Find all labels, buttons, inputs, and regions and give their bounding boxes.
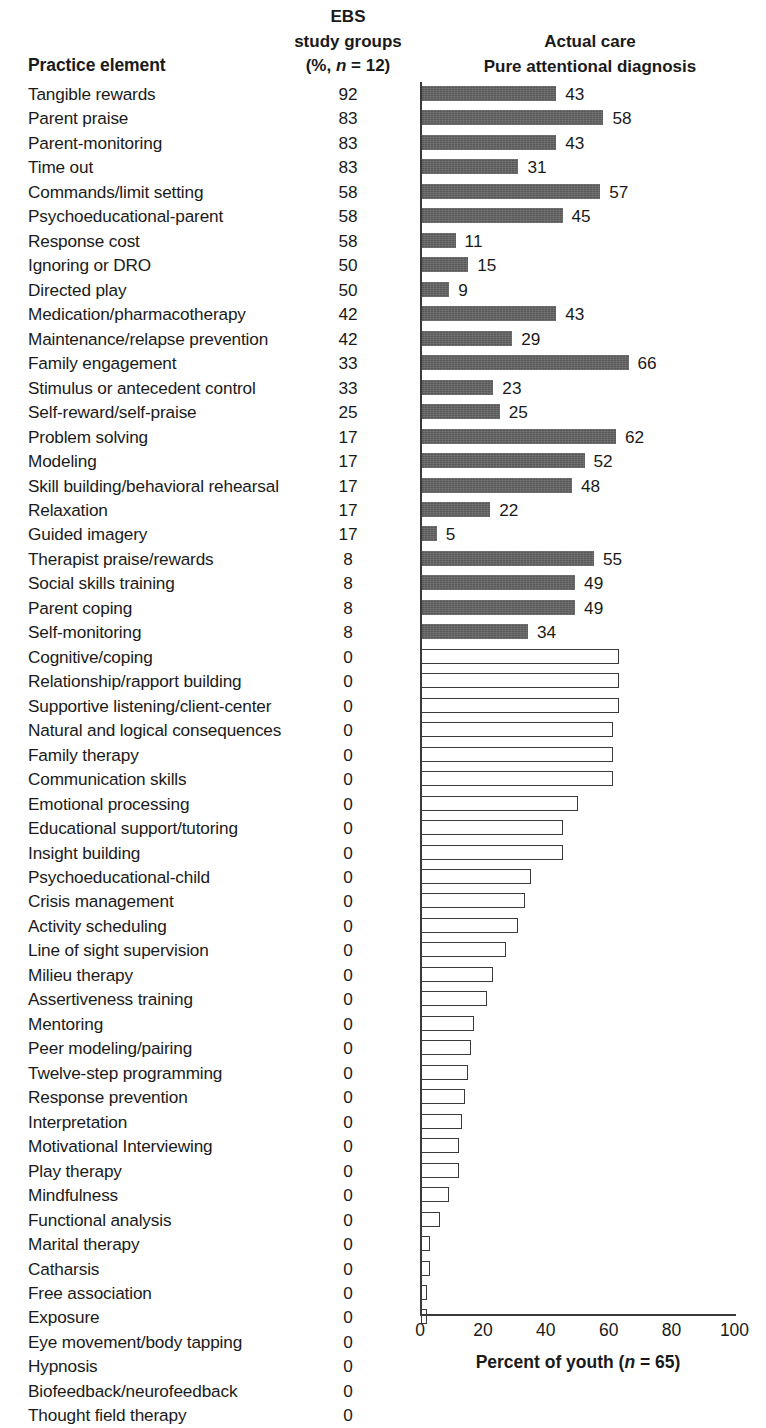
chart-row: Parent coping849 [0,596,766,620]
actual-care-bar [421,698,619,713]
actual-care-bar [421,1089,465,1104]
ebs-percent-value: 0 [286,1111,410,1133]
practice-element-label: Parent coping [28,597,132,619]
actual-care-bar-cell: 9 [421,278,766,302]
actual-care-bar [421,673,619,688]
actual-care-bar-value: 25 [509,401,528,423]
actual-care-bar [421,306,556,321]
ebs-percent-value: 58 [286,205,410,227]
actual-care-header-line1: Actual care [414,30,766,55]
actual-care-bar [421,893,525,908]
practice-element-label: Commands/limit setting [28,181,203,203]
actual-care-bar-cell: 48 [421,474,766,498]
practice-element-label: Line of sight supervision [28,939,209,961]
actual-care-bar [421,86,556,101]
practice-element-label: Activity scheduling [28,915,167,937]
actual-care-bar [421,159,518,174]
actual-care-bar [421,1138,459,1153]
ebs-percent-value: 0 [286,1404,410,1426]
actual-care-bar-cell [421,1061,766,1085]
x-axis-title-n: n [624,1352,635,1372]
ebs-percent-value: 0 [286,1135,410,1157]
actual-care-bar [421,184,600,199]
practice-element-label: Insight building [28,842,140,864]
chart-row: Functional analysis0 [0,1208,766,1232]
actual-care-bar [421,1285,427,1300]
actual-care-bar-value: 43 [565,303,584,325]
practice-element-label: Relationship/rapport building [28,670,242,692]
actual-care-bar-value: 9 [458,279,468,301]
actual-care-bar-cell [421,914,766,938]
practice-element-label: Guided imagery [28,523,147,545]
actual-care-bar [421,135,556,150]
actual-care-bar-cell [421,889,766,913]
chart-row: Catharsis0 [0,1257,766,1281]
actual-care-bar-value: 58 [612,107,631,129]
chart-row: Educational support/tutoring0 [0,816,766,840]
chart-row: Stimulus or antecedent control3323 [0,376,766,400]
chart-header: Practice element EBS study groups (%, n … [0,0,766,82]
actual-care-bar [421,551,594,566]
actual-care-bar-value: 31 [527,156,546,178]
actual-care-bar [421,1187,449,1202]
actual-care-bar-cell: 62 [421,425,766,449]
ebs-header-line3: (%, n = 12) [286,54,410,79]
actual-care-bar-value: 11 [465,230,483,252]
actual-care-bar-cell: 55 [421,547,766,571]
practice-element-label: Skill building/behavioral rehearsal [28,475,279,497]
practice-element-label: Relaxation [28,499,108,521]
practice-element-label: Interpretation [28,1111,127,1133]
practice-element-label: Thought field therapy [28,1404,186,1426]
ebs-percent-value: 58 [286,181,410,203]
practice-element-label: Directed play [28,279,126,301]
practice-element-label: Social skills training [28,572,175,594]
actual-care-bar-cell: 15 [421,253,766,277]
actual-care-bar-value: 29 [521,328,540,350]
actual-care-bar-cell [421,1134,766,1158]
actual-care-bar-value: 62 [625,426,644,448]
chart-row: Peer modeling/pairing0 [0,1036,766,1060]
ebs-percent-value: 0 [286,1037,410,1059]
chart-row: Line of sight supervision0 [0,938,766,962]
actual-care-bar [421,869,531,884]
ebs-header-line3-n: n [336,56,346,75]
ebs-header-line3-pre: (%, [306,56,336,75]
practice-element-label: Mentoring [28,1013,103,1035]
actual-care-bar [421,649,619,664]
ebs-percent-value: 17 [286,499,410,521]
ebs-percent-value: 0 [286,988,410,1010]
actual-care-bar-value: 15 [477,254,496,276]
ebs-percent-value: 0 [286,1184,410,1206]
actual-care-bar-cell [421,1183,766,1207]
ebs-percent-value: 0 [286,1013,410,1035]
actual-care-bar [421,282,449,297]
ebs-percent-value: 25 [286,401,410,423]
practice-element-label: Response prevention [28,1086,188,1108]
actual-care-bar-cell: 52 [421,449,766,473]
actual-care-bar [421,453,585,468]
actual-care-bar-cell [421,816,766,840]
actual-care-bar-value: 52 [594,450,613,472]
actual-care-bar [421,526,437,541]
chart-row: Tangible rewards9243 [0,82,766,106]
actual-care-bar-cell [421,1257,766,1281]
chart-row: Supportive listening/client-center0 [0,694,766,718]
ebs-percent-value: 50 [286,254,410,276]
actual-care-bar [421,747,613,762]
chart-row: Problem solving1762 [0,425,766,449]
chart-row: Twelve-step programming0 [0,1061,766,1085]
ebs-percent-value: 0 [286,695,410,717]
y-axis-line [420,82,422,1315]
actual-care-bar-cell: 31 [421,155,766,179]
actual-care-bar-value: 43 [565,83,584,105]
chart-row: Crisis management0 [0,889,766,913]
ebs-percent-value: 0 [286,866,410,888]
chart-row: Maintenance/relapse prevention4229 [0,327,766,351]
practice-element-label: Tangible rewards [28,83,156,105]
ebs-percent-value: 0 [286,768,410,790]
actual-care-bar-cell [421,694,766,718]
ebs-percent-value: 42 [286,303,410,325]
chart-row: Modeling1752 [0,449,766,473]
actual-care-bar [421,502,490,517]
chart-row: Motivational Interviewing0 [0,1134,766,1158]
